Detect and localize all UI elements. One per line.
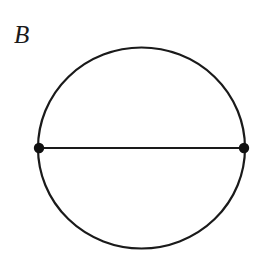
- figure-container: B: [0, 0, 265, 260]
- graph-diagram-svg: [0, 0, 265, 260]
- right-vertex-dot: [239, 143, 249, 153]
- left-vertex-dot: [34, 143, 44, 153]
